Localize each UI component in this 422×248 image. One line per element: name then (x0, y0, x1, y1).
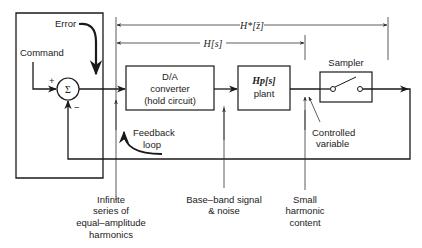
sampler-title: Sampler (328, 57, 363, 68)
plant-block: Hp[s] plant (238, 66, 290, 110)
svg-text:plant: plant (254, 88, 275, 99)
block-diagram: Error Command + Σ − H*[z̄] H[s] D/A conv… (0, 0, 422, 248)
svg-text:Small: Small (293, 194, 317, 205)
controlled-variable-line2: variable (316, 138, 349, 149)
svg-text:Base–band signal: Base–band signal (186, 194, 262, 205)
baseband-note: Base–band signal & noise (186, 194, 262, 216)
feedback-label-line2: loop (143, 139, 161, 150)
svg-text:harmonic: harmonic (285, 205, 324, 216)
svg-text:D/A: D/A (162, 71, 179, 82)
error-arrow (79, 24, 96, 74)
svg-text:& noise: & noise (208, 205, 240, 216)
da-converter-block: D/A converter (hold circuit) (126, 66, 214, 110)
svg-text:harmonics: harmonics (89, 229, 133, 240)
svg-text:content: content (289, 217, 321, 228)
feedback-label-line1: Feedback (133, 127, 175, 138)
controlled-variable-line1: Controlled (312, 127, 355, 138)
svg-text:equal–amplitude: equal–amplitude (76, 217, 146, 228)
infinite-series-note: Infinite series of equal–amplitude harmo… (76, 194, 146, 240)
sampler-block (320, 72, 372, 102)
small-harmonic-note: Small harmonic content (285, 194, 324, 228)
summing-junction: Σ (57, 78, 79, 100)
minus-sign: − (74, 102, 80, 113)
command-label: Command (20, 47, 64, 58)
inner-span-label: H[s] (203, 38, 223, 49)
svg-text:converter: converter (150, 83, 190, 94)
plus-sign: + (49, 75, 55, 86)
controlled-variable-pointer (309, 97, 320, 122)
outer-span-label: H*[z̄] (239, 20, 264, 31)
svg-text:Infinite: Infinite (97, 194, 125, 205)
svg-text:Σ: Σ (65, 84, 71, 95)
svg-text:series of: series of (93, 205, 129, 216)
svg-text:Hp[s]: Hp[s] (251, 75, 276, 86)
svg-text:(hold circuit): (hold circuit) (144, 95, 196, 106)
error-label: Error (55, 18, 76, 29)
